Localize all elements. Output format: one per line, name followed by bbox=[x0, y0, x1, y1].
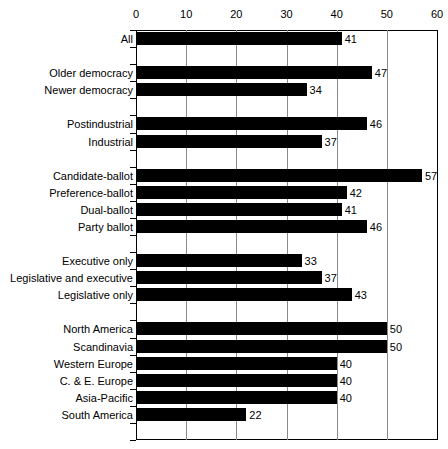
bar bbox=[136, 220, 367, 233]
bar bbox=[136, 271, 322, 284]
bar-value-label: 50 bbox=[390, 341, 402, 353]
bar bbox=[136, 83, 307, 96]
x-tick-label-0: 0 bbox=[133, 8, 139, 21]
category-label: Legislative and executive bbox=[10, 272, 133, 284]
category-label: Candidate-ballot bbox=[53, 170, 133, 182]
bar-value-label: 57 bbox=[425, 170, 437, 182]
category-label: Party ballot bbox=[78, 221, 133, 233]
category-label: Postindustrial bbox=[67, 118, 133, 130]
x-tick-label-30: 30 bbox=[280, 8, 292, 21]
bar-value-label: 34 bbox=[310, 84, 322, 96]
category-label: Legislative only bbox=[58, 289, 133, 301]
bar bbox=[136, 117, 367, 130]
gridline-40 bbox=[337, 30, 338, 440]
category-label: All bbox=[121, 33, 133, 45]
category-label: Preference-ballot bbox=[49, 187, 133, 199]
plot-area bbox=[136, 30, 437, 440]
category-label: Dual-ballot bbox=[80, 204, 133, 216]
bar-value-label: 37 bbox=[325, 272, 337, 284]
bar-value-label: 40 bbox=[340, 375, 352, 387]
category-label: Industrial bbox=[88, 136, 133, 148]
x-tick-label-40: 40 bbox=[331, 8, 343, 21]
bar bbox=[136, 254, 302, 267]
bar bbox=[136, 66, 372, 79]
bar bbox=[136, 135, 322, 148]
bar-value-label: 50 bbox=[390, 323, 402, 335]
category-label: Asia-Pacific bbox=[76, 392, 133, 404]
bar bbox=[136, 288, 352, 301]
y-tick-24 bbox=[130, 440, 136, 441]
bar-value-label: 37 bbox=[325, 136, 337, 148]
category-label: North America bbox=[63, 323, 133, 335]
bar-value-label: 42 bbox=[350, 187, 362, 199]
bar bbox=[136, 322, 387, 335]
bar bbox=[136, 340, 387, 353]
category-label: Newer democracy bbox=[44, 84, 133, 96]
category-label: Older democracy bbox=[49, 67, 133, 79]
bar-value-label: 40 bbox=[340, 358, 352, 370]
bar bbox=[136, 203, 342, 216]
bar bbox=[136, 32, 342, 45]
bar-value-label: 43 bbox=[355, 289, 367, 301]
x-tick-label-50: 50 bbox=[381, 8, 393, 21]
category-label: Western Europe bbox=[54, 358, 133, 370]
bar bbox=[136, 169, 422, 182]
bar-value-label: 47 bbox=[375, 67, 387, 79]
category-label: Scandinavia bbox=[73, 341, 133, 353]
category-label: South America bbox=[61, 409, 133, 421]
bar-value-label: 22 bbox=[249, 409, 261, 421]
bar-value-label: 41 bbox=[345, 33, 357, 45]
bar-value-label: 46 bbox=[370, 221, 382, 233]
bar-value-label: 40 bbox=[340, 392, 352, 404]
bar bbox=[136, 374, 337, 387]
bar bbox=[136, 357, 337, 370]
x-tick-label-20: 20 bbox=[230, 8, 242, 21]
gridline-50 bbox=[387, 30, 388, 440]
bar-chart: 0102030405060 AllOlder democracyNewer de… bbox=[0, 0, 448, 449]
bar bbox=[136, 186, 347, 199]
x-tick-label-10: 10 bbox=[180, 8, 192, 21]
bar bbox=[136, 408, 246, 421]
bar-value-label: 41 bbox=[345, 204, 357, 216]
bar-value-label: 33 bbox=[305, 255, 317, 267]
gridline-60 bbox=[437, 30, 438, 440]
category-label: C. & E. Europe bbox=[60, 375, 133, 387]
bar bbox=[136, 391, 337, 404]
x-tick-label-60: 60 bbox=[431, 8, 443, 21]
bar-value-label: 46 bbox=[370, 118, 382, 130]
category-label: Executive only bbox=[62, 255, 133, 267]
